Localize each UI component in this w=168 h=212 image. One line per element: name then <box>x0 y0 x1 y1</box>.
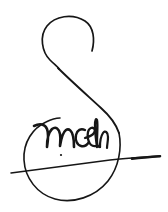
signature-canvas <box>0 0 168 212</box>
signature-drawing <box>0 0 168 212</box>
paper-background <box>0 0 168 212</box>
ink-dot-accent <box>60 154 62 156</box>
